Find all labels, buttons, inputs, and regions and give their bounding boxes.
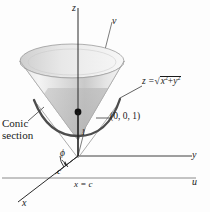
equation-lhs: z = [142,76,154,86]
height-label: 1 [81,128,86,137]
conic-label-line-1: Conic [2,118,58,130]
plane-equation-label: x = c [74,180,93,189]
cone-equation-label: z =√x2+y2 [142,76,181,87]
phi-angle-label: ϕ [60,149,65,159]
v-axis-label: v [112,16,116,27]
exponent-y: 2 [177,75,180,81]
point-label: (0, 0, 1) [110,112,140,122]
c-length-label: c [57,167,61,176]
figure-graphics [0,0,210,212]
u-axis-label: u [192,177,197,188]
y-axis-label: y [192,150,196,161]
conic-section-figure: z v y u x z =√x2+y2 (0, 0, 1) Conic sect… [0,0,210,212]
x-axis-label: x [22,198,26,209]
conic-label-line-2: section [2,130,58,142]
conic-section-label: Conic section [2,118,58,141]
equation-leader-line [120,86,142,98]
z-axis-label: z [72,3,76,14]
